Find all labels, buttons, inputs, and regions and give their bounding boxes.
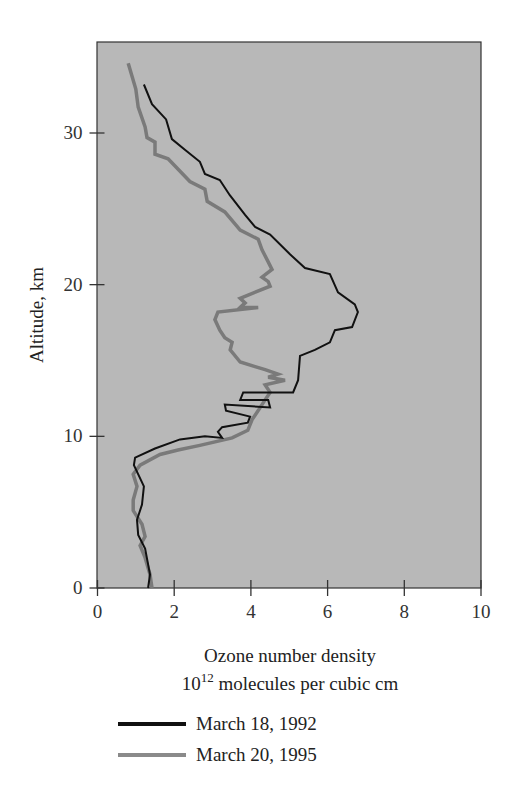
x-axis-units: 1012 molecules per cubic cm (182, 670, 399, 694)
x-tick-label: 6 (323, 601, 333, 622)
x-tick-label: 2 (169, 601, 179, 622)
legend-swatch-1992 (118, 722, 186, 726)
y-tick-label: 30 (64, 122, 83, 143)
legend-label-1992: March 18, 1992 (196, 713, 317, 735)
legend-item-1995: March 20, 1995 (118, 739, 317, 770)
legend-item-1992: March 18, 1992 (118, 708, 317, 739)
legend: March 18, 1992 March 20, 1995 (118, 708, 317, 770)
y-tick-label: 0 (73, 577, 83, 598)
y-axis-title: Altitude, km (26, 267, 47, 363)
y-tick-label: 20 (64, 274, 83, 295)
legend-label-1995: March 20, 1995 (196, 744, 317, 766)
x-tick-label: 10 (472, 601, 491, 622)
x-tick-label: 4 (246, 601, 256, 622)
plot-area (97, 42, 481, 588)
y-tick-label: 10 (64, 425, 83, 446)
x-axis-title: Ozone number density (204, 645, 377, 666)
x-tick-label: 8 (400, 601, 410, 622)
legend-swatch-1995 (118, 753, 186, 757)
x-tick-label: 0 (93, 601, 103, 622)
ozone-profile-chart: 0102030 0246810 Altitude, km Ozone numbe… (0, 0, 523, 700)
